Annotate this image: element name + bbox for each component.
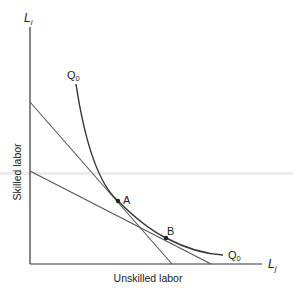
point-a-label: A	[123, 194, 131, 206]
steep-isocost-line	[30, 102, 172, 264]
point-b-label: B	[167, 225, 174, 237]
x-axis-title: Unskilled labor	[114, 272, 183, 284]
isoquant-label-top: Q0	[67, 69, 80, 83]
shallow-isocost-line	[30, 171, 211, 264]
y-axis-symbol: Li	[24, 11, 33, 27]
x-axis-symbol: Lj	[268, 257, 277, 273]
y-axis-title: Skilled labor	[11, 143, 23, 201]
point-a-marker	[116, 199, 120, 203]
isoquant-label-bottom: Q0	[228, 249, 241, 263]
isoquant-curve	[76, 84, 223, 255]
isoquant-diagram: Li Lj Skilled labor Unskilled labor Q0 Q…	[0, 0, 293, 295]
